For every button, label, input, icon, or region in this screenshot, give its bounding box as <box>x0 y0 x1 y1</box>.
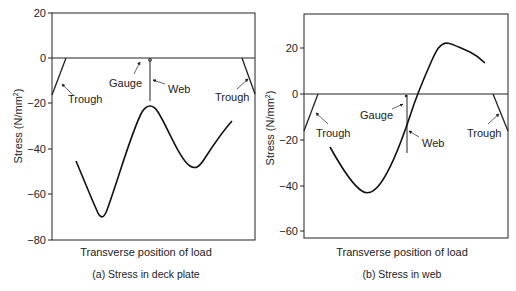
chart-caption: (a) Stress in deck plate <box>92 268 200 280</box>
stress-curve <box>76 106 232 217</box>
trough-line-right <box>493 94 508 131</box>
trough-label-right: Trough <box>467 127 501 139</box>
plot-frame <box>52 13 255 240</box>
y-axis-label: Stress (N/mm2) <box>264 91 276 166</box>
y-tick-label: −40 <box>27 143 46 155</box>
trough-line-left <box>52 58 66 95</box>
gauge-arrow <box>134 62 140 74</box>
y-axis-ticks <box>48 13 52 240</box>
trough-line-left <box>304 94 318 131</box>
figure: 20 0 −20 −40 −60 −80 Stress (N/mm2) Trou… <box>0 0 516 291</box>
trough-arrow-right <box>237 79 248 89</box>
y-axis-ticks <box>300 48 304 231</box>
y-axis-label: Stress (N/mm2) <box>12 89 24 164</box>
gauge-arrow <box>392 104 403 109</box>
chart-deck-plate: 20 0 −20 −40 −60 −80 Stress (N/mm2) Trou… <box>12 7 255 280</box>
web-label: Web <box>168 83 190 95</box>
y-tick-label: −20 <box>27 97 46 109</box>
x-axis-label: Transverse position of load <box>80 246 212 258</box>
trough-line-right <box>242 58 255 94</box>
trough-label-left: Trough <box>316 127 350 139</box>
y-tick-label: 0 <box>40 52 46 64</box>
web-arrow <box>409 131 419 137</box>
trough-arrow-right <box>488 114 499 124</box>
y-tick-label: −60 <box>279 225 298 237</box>
gauge-marker <box>405 95 407 97</box>
y-tick-label: 20 <box>34 7 46 19</box>
web-arrow <box>153 80 165 84</box>
gauge-label: Gauge <box>360 109 393 121</box>
gauge-label: Gauge <box>109 77 142 89</box>
y-tick-label: −20 <box>279 134 298 146</box>
y-tick-label: −60 <box>27 188 46 200</box>
trough-label-left: Trough <box>68 93 102 105</box>
web-label: Web <box>422 137 444 149</box>
trough-arrow-left <box>316 113 328 124</box>
x-axis-label: Transverse position of load <box>336 246 468 258</box>
y-tick-label: 0 <box>292 88 298 100</box>
chart-web: 20 0 −20 −40 −60 Stress (N/mm2) Trough G… <box>264 14 508 280</box>
trough-label-right: Trough <box>215 91 249 103</box>
y-tick-label: −40 <box>279 180 298 192</box>
y-tick-label: −80 <box>27 234 46 246</box>
y-tick-label: 20 <box>286 42 298 54</box>
chart-caption: (b) Stress in web <box>363 268 442 280</box>
